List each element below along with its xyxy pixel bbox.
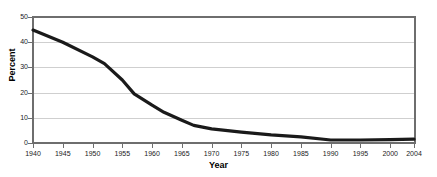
y-tick-mark [28, 93, 32, 94]
y-tick-label: 50 [2, 13, 28, 20]
gridline [33, 118, 414, 119]
x-tick-label: 1970 [197, 150, 227, 158]
x-tick-label: 1975 [226, 150, 256, 158]
plot-border-top [33, 16, 416, 18]
x-tick-label: 1995 [345, 150, 375, 158]
x-tick-label: 1990 [316, 150, 346, 158]
y-tick-mark [28, 118, 32, 119]
y-axis-line [32, 16, 34, 144]
y-tick-label-wrap: 50 [0, 13, 28, 20]
plot-border-right [414, 16, 416, 144]
x-tick-label: 1955 [107, 150, 137, 158]
x-tick-mark [360, 144, 361, 148]
x-tick-mark [33, 144, 34, 148]
gridline [33, 67, 414, 68]
y-axis-title: Percent [7, 25, 17, 105]
x-tick-mark [182, 144, 183, 148]
x-tick-mark [390, 144, 391, 148]
plot-area [33, 17, 415, 143]
x-tick-mark [93, 144, 94, 148]
x-tick-label: 1965 [167, 150, 197, 158]
gridline [33, 42, 414, 43]
x-tick-label: 1940 [18, 150, 48, 158]
y-tick-mark [28, 143, 32, 144]
x-tick-label: 1945 [48, 150, 78, 158]
line-chart: 01020304050 1940194519501955196019651970… [0, 0, 437, 177]
y-tick-label-wrap: 0 [0, 139, 28, 146]
y-tick-label-wrap: 10 [0, 114, 28, 121]
y-tick-mark [28, 67, 32, 68]
x-tick-mark [414, 144, 415, 148]
x-tick-mark [241, 144, 242, 148]
gridline [33, 93, 414, 94]
y-tick-mark [28, 42, 32, 43]
x-axis-title: Year [0, 160, 437, 170]
x-tick-mark [331, 144, 332, 148]
x-tick-label: 1980 [256, 150, 286, 158]
x-tick-mark [212, 144, 213, 148]
x-tick-label: 1950 [78, 150, 108, 158]
x-tick-mark [63, 144, 64, 148]
y-tick-mark [28, 17, 32, 18]
x-tick-label: 1985 [286, 150, 316, 158]
x-tick-label: 2004 [399, 150, 429, 158]
x-tick-label: 1960 [137, 150, 167, 158]
x-tick-mark [122, 144, 123, 148]
x-tick-mark [152, 144, 153, 148]
y-tick-label: 10 [2, 114, 28, 121]
x-axis-line [32, 142, 416, 144]
y-tick-label: 0 [2, 139, 28, 146]
x-tick-mark [301, 144, 302, 148]
x-tick-mark [271, 144, 272, 148]
